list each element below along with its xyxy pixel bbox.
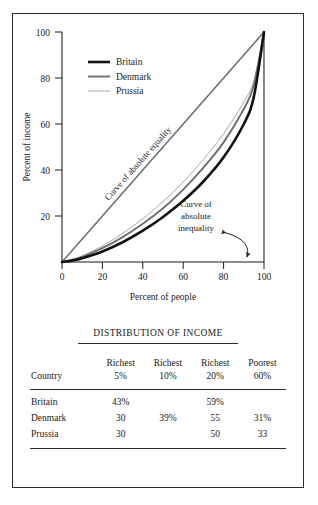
- y-axis-ticks: [55, 32, 62, 216]
- header-richest-20-top: Richest: [192, 358, 239, 371]
- table-row: Britain43%59%: [30, 395, 286, 411]
- cell-value-3: 31%: [239, 411, 286, 427]
- figure-container: 100 80 60 40 20 0 20 40 60 80: [0, 0, 318, 505]
- y-tick-label: 40: [41, 166, 51, 176]
- lorenz-curve-chart: 100 80 60 40 20 0 20 40 60 80: [0, 0, 318, 318]
- y-tick-label: 60: [41, 120, 51, 130]
- chart-svg: 100 80 60 40 20 0 20 40 60 80: [0, 0, 318, 318]
- y-tick-label: 100: [36, 28, 51, 38]
- header-richest-10-top: Richest: [144, 358, 191, 371]
- chart-legend: BritainDenmarkPrussia: [88, 57, 152, 96]
- cell-country: Britain: [30, 395, 97, 411]
- header-richest-5: 5%: [97, 371, 144, 384]
- x-tick-label: 0: [60, 272, 65, 282]
- header-blank: [30, 358, 97, 371]
- cell-value-2: 59%: [192, 395, 239, 411]
- y-axis-tick-labels: 100 80 60 40 20: [36, 28, 51, 222]
- inequality-label-line1: Curve of: [180, 199, 212, 209]
- x-tick-label: 80: [219, 272, 229, 282]
- table-title: DISTRIBUTION OF INCOME: [12, 325, 304, 338]
- cell-value-0: 30: [97, 427, 144, 443]
- table-rule-under-header: [30, 384, 286, 395]
- y-tick-label: 80: [41, 74, 51, 84]
- header-richest-20: 20%: [192, 371, 239, 384]
- x-axis-tick-labels: 0 20 40 60 80 100: [60, 272, 272, 282]
- cell-country: Prussia: [30, 427, 97, 443]
- cell-value-1: 39%: [144, 411, 191, 427]
- cell-value-2: 50: [192, 427, 239, 443]
- header-poorest-60: 60%: [239, 371, 286, 384]
- header-poorest-60-top: Poorest: [239, 358, 286, 371]
- header-country: Country: [30, 371, 97, 384]
- x-tick-label: 20: [98, 272, 108, 282]
- cell-value-1: [144, 395, 191, 411]
- x-tick-label: 40: [138, 272, 148, 282]
- cell-country: Denmark: [30, 411, 97, 427]
- distribution-of-income-table: Richest Richest Richest Poorest Country …: [30, 358, 286, 452]
- header-richest-10: 10%: [144, 371, 191, 384]
- header-rule: [30, 389, 286, 390]
- cell-value-1: [144, 427, 191, 443]
- table-rule-bottom: [30, 443, 286, 451]
- inequality-label-line3: inequality: [178, 223, 214, 233]
- y-axis-title: Percent of income: [22, 112, 32, 181]
- legend-label-prussia: Prussia: [116, 86, 144, 96]
- legend-label-denmark: Denmark: [116, 72, 152, 82]
- header-richest-5-top: Richest: [97, 358, 144, 371]
- inequality-annotation: Curve of absolute inequality: [178, 199, 248, 257]
- x-axis-ticks: [62, 262, 264, 269]
- cell-value-3: [239, 395, 286, 411]
- table-header-row-bottom: Country 5% 10% 20% 60%: [30, 371, 286, 384]
- inequality-arrow: [226, 233, 248, 257]
- table-body: Britain43%59%Denmark3039%5531%Prussia305…: [30, 395, 286, 444]
- cell-value-3: 33: [239, 427, 286, 443]
- cell-value-2: 55: [192, 411, 239, 427]
- table-row: Prussia305033: [30, 427, 286, 443]
- table-title-rule: [78, 343, 238, 344]
- inequality-label-line2: absolute: [181, 211, 211, 221]
- legend-label-britain: Britain: [116, 57, 143, 67]
- series-line-curve-of-absolute-equality: [62, 32, 264, 262]
- x-tick-label: 60: [178, 272, 188, 282]
- cell-value-0: 30: [97, 411, 144, 427]
- table-row: Denmark3039%5531%: [30, 411, 286, 427]
- footer-rule: [30, 448, 286, 449]
- table-header-row-top: Richest Richest Richest Poorest: [30, 358, 286, 371]
- cell-value-0: 43%: [97, 395, 144, 411]
- x-axis-title: Percent of people: [130, 292, 196, 302]
- distribution-table-block: DISTRIBUTION OF INCOME Richest Richest R…: [12, 325, 304, 488]
- chart-series-group: [62, 32, 264, 262]
- y-tick-label: 20: [41, 212, 51, 222]
- equality-line-label: Curve of absolute equality: [102, 124, 173, 202]
- x-tick-label: 100: [257, 272, 272, 282]
